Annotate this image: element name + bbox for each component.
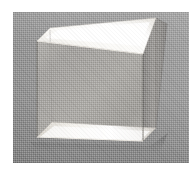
slab-illustration (13, 12, 189, 163)
photograph (13, 12, 189, 163)
image-page: Black-and-white halftone photograph of a… (0, 0, 196, 171)
